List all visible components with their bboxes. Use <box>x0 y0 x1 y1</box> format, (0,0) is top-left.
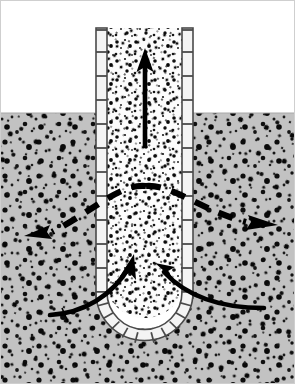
shaft-lining-right-wall <box>182 28 193 298</box>
shaft-lining-left-wall <box>96 28 107 298</box>
soil-speckle-overlay-right <box>193 113 295 384</box>
soil-speckle-overlay-left <box>0 113 96 384</box>
shaft-sinking-diagram <box>0 0 295 384</box>
diagram-canvas <box>0 0 295 384</box>
